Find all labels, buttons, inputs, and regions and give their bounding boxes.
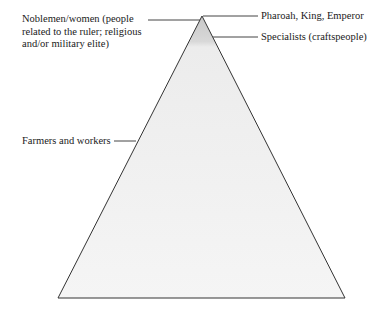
label-nobles-line-1: Noblemen/women (people [22, 13, 142, 26]
label-pharoah: Pharoah, King, Emperor [261, 10, 364, 23]
label-nobles: Noblemen/women (people related to the ru… [22, 13, 142, 51]
pyramid-shape [58, 16, 345, 298]
label-farmers: Farmers and workers [22, 135, 111, 148]
label-specialists: Specialists (craftspeople) [261, 31, 367, 44]
label-nobles-line-2: related to the ruler; religious [22, 26, 142, 39]
label-nobles-line-3: and/or military elite) [22, 38, 142, 51]
